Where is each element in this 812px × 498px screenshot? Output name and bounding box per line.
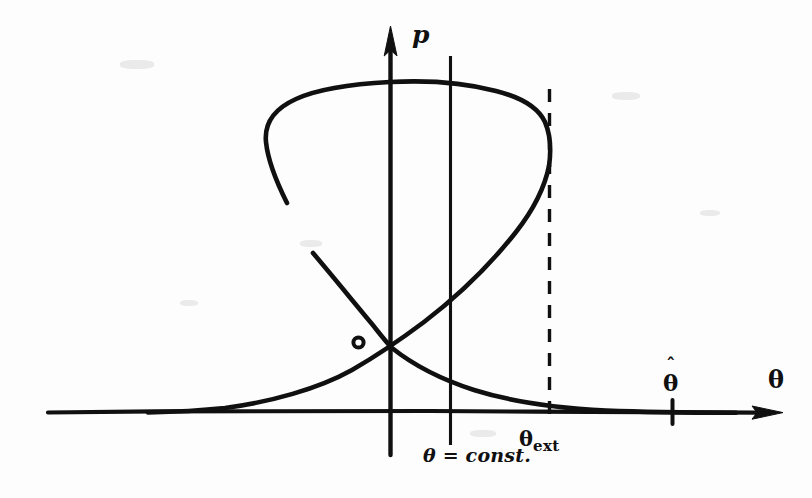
- scan-speck: [700, 210, 720, 216]
- scan-speck: [300, 240, 322, 247]
- scan-speck: [180, 300, 198, 306]
- theta-hat-base: θ: [663, 369, 678, 396]
- origin-circle-marker: [353, 337, 363, 347]
- theta-const-label: θ = const.: [423, 446, 531, 465]
- scan-speck: [470, 430, 496, 437]
- scan-speck: [612, 92, 640, 100]
- theta-axis-label: θ: [768, 368, 784, 392]
- curves-group: [148, 81, 736, 412]
- theta-axis-arrowhead: [752, 406, 783, 419]
- figure-container: p θ ˆ θ θext θ = const.: [0, 0, 812, 498]
- curve-upper-branch: [266, 81, 550, 203]
- theta-hat-label: ˆ θ: [663, 362, 678, 394]
- phase-diagram-svg: [0, 0, 812, 498]
- scan-speck: [120, 60, 154, 69]
- curve-lower-branch: [148, 166, 549, 413]
- theta-ext-subscript: ext: [533, 437, 560, 455]
- p-axis-label: p: [412, 22, 429, 47]
